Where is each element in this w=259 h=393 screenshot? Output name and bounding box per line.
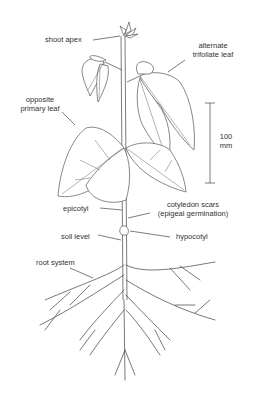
- leader-root: [70, 268, 93, 278]
- leader-shoot-apex: [93, 36, 120, 40]
- leader-soil: [98, 235, 121, 240]
- upper-left-leaf: [82, 56, 122, 102]
- leader-trifoliate: [168, 60, 185, 72]
- label-epicotyl: epicotyl: [63, 204, 88, 213]
- scale-unit: mm: [213, 141, 239, 150]
- scale-value: 100: [213, 132, 239, 141]
- root-system: [40, 262, 215, 380]
- label-cotyledon-scars: cotyledon scars (epigeal germination): [152, 200, 234, 218]
- label-scale: 100 mm: [213, 132, 239, 150]
- label-hypocotyl: hypocotyl: [176, 232, 208, 241]
- label-line-2: primary leaf: [15, 104, 65, 113]
- leader-primary-leaf: [62, 112, 75, 125]
- label-line-1: alternate: [183, 41, 243, 50]
- label-alternate-trifoliate-leaf: alternate trifoliate leaf: [183, 41, 243, 59]
- label-line-1: opposite: [15, 95, 65, 104]
- label-root-system: root system: [36, 258, 75, 267]
- shoot-apex-bud: [120, 22, 138, 38]
- leader-hypocotyl: [130, 231, 170, 237]
- leader-epicotyl: [100, 208, 122, 210]
- label-line-2: trifoliate leaf: [183, 50, 243, 59]
- label-line-1: cotyledon scars: [152, 200, 234, 209]
- leader-cotyledon: [128, 213, 150, 218]
- cotyledon-scar: [120, 226, 129, 235]
- label-line-2: (epigeal germination): [152, 209, 234, 218]
- label-soil-level: soil level: [61, 232, 90, 241]
- label-shoot-apex: shoot apex: [45, 35, 82, 44]
- label-opposite-primary-leaf: opposite primary leaf: [15, 95, 65, 113]
